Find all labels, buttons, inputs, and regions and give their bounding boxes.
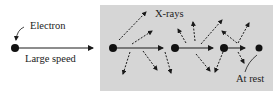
electron-dot-icon <box>220 44 228 52</box>
electron-pointer-icon <box>16 27 24 40</box>
electron-dot-icon <box>11 44 19 52</box>
electron-at-rest-dot-icon <box>256 45 263 52</box>
electron-dot-icon <box>109 44 117 52</box>
bremsstrahlung-diagram: Electron Large speed X-rays At rest <box>0 0 276 95</box>
speed-label: Large speed <box>25 53 77 64</box>
xrays-label: X-rays <box>155 8 184 19</box>
electron-label: Electron <box>30 20 66 31</box>
at-rest-label: At rest <box>236 73 264 84</box>
electron-dot-icon <box>171 44 179 52</box>
